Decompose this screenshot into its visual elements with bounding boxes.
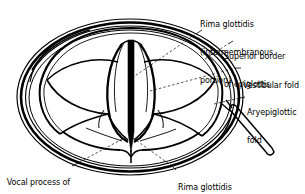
label-vocal-process-of-arytenoid-cartilage: Vocal process of arytenoid cartilage: [2, 160, 70, 194]
label-line: Rima glottidis: [200, 20, 273, 29]
label-line: Rima glottidis: [178, 183, 249, 192]
rima-glottidis-opening: [128, 40, 134, 163]
label-line: Superior border: [224, 52, 285, 61]
label-line: fold: [247, 136, 297, 145]
leader-rima-intermembranous: [132, 34, 196, 78]
label-line: Vocal process of: [2, 178, 70, 187]
label-line: Aryepiglottic: [247, 108, 297, 117]
larynx-figure: Rima glottidis (intermembranous portion)…: [0, 0, 305, 194]
label-rima-glottidis-intercartilaginous: Rima glottidis (intercartilaginous porti…: [178, 165, 249, 194]
label-aryepiglottic-fold: Aryepiglottic fold: [247, 90, 297, 164]
